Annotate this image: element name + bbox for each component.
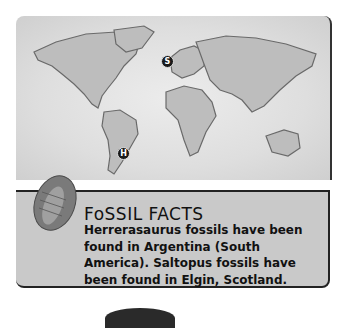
- fossil-facts-text: Herrerasaurus fossils have been found in…: [84, 222, 305, 288]
- map-marker-saltopus[interactable]: S: [161, 55, 174, 68]
- partial-image-below: [105, 308, 175, 328]
- australia: [266, 130, 300, 156]
- asia: [196, 36, 316, 112]
- map-marker-herrerasaurus[interactable]: H: [117, 147, 130, 160]
- fossil-facts-title: FoSSIL FACTS: [84, 204, 204, 224]
- africa: [166, 86, 216, 156]
- world-map: [16, 16, 330, 180]
- trilobite-icon: [30, 172, 80, 234]
- south-america: [102, 110, 138, 174]
- world-map-panel: S H: [16, 16, 332, 180]
